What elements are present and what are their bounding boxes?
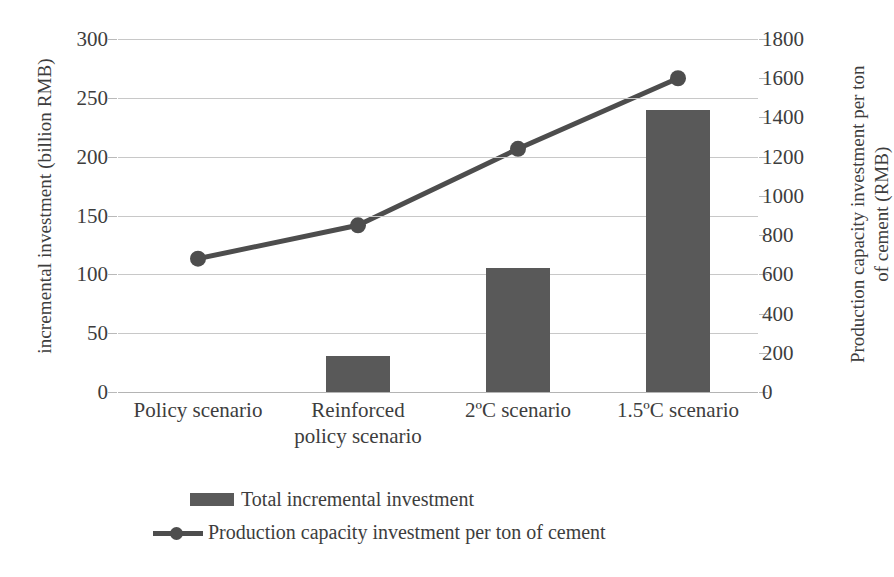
right-axis-title: Production capacity investment per ton o…: [846, 4, 894, 424]
legend-item-production-capacity-investment: Production capacity investment per ton o…: [0, 521, 889, 544]
line-marker-1: [350, 217, 366, 233]
left-tickmark-200: [108, 157, 117, 158]
left-tickmark-250: [108, 98, 117, 99]
left-tickmark-50: [108, 333, 117, 334]
right-tick-label-800: 800: [762, 225, 794, 246]
right-axis-title-line1: Production capacity investment per ton: [846, 4, 870, 424]
line-marker-0: [190, 251, 206, 267]
plot-area: [118, 39, 758, 392]
right-tick-label-1200: 1200: [762, 147, 804, 168]
category-label-3: 1.5ºC scenario: [598, 398, 758, 424]
gridline-0: [118, 392, 758, 393]
right-tick-label-1800: 1800: [762, 29, 804, 50]
category-label-2: 2ºC scenario: [438, 398, 598, 424]
legend-item-total-incremental-investment: Total incremental investment: [0, 488, 889, 511]
legend-label-total-incremental-investment: Total incremental investment: [241, 488, 474, 511]
bar-swatch-icon: [190, 493, 234, 506]
left-tick-label-200: 200: [77, 147, 109, 168]
line-marker-2: [510, 141, 526, 157]
gridline-300: [118, 39, 758, 40]
category-label-1: Reinforcedpolicy scenario: [278, 398, 438, 449]
line-path: [198, 78, 678, 258]
x-axis-category-labels: Policy scenarioReinforcedpolicy scenario…: [118, 398, 758, 458]
left-tick-label-50: 50: [87, 323, 108, 344]
left-tick-label-0: 0: [98, 382, 109, 403]
legend-label-production-capacity-investment: Production capacity investment per ton o…: [208, 521, 606, 544]
left-tick-label-100: 100: [77, 264, 109, 285]
right-axis-title-line2: of cement (RMB): [870, 4, 894, 424]
left-tickmark-100: [108, 274, 117, 275]
left-tick-label-250: 250: [77, 88, 109, 109]
line-circle-swatch-icon: [153, 525, 203, 541]
right-tick-label-1000: 1000: [762, 186, 804, 207]
bar-2: [486, 268, 550, 392]
left-tick-label-150: 150: [77, 206, 109, 227]
left-tickmark-150: [108, 216, 117, 217]
category-label-0: Policy scenario: [118, 398, 278, 424]
bar-3: [646, 110, 710, 392]
right-tick-label-400: 400: [762, 304, 794, 325]
right-tick-label-0: 0: [762, 382, 773, 403]
right-tick-label-1600: 1600: [762, 68, 804, 89]
left-tickmark-0: [108, 392, 117, 393]
right-tick-label-600: 600: [762, 264, 794, 285]
right-tick-label-1400: 1400: [762, 107, 804, 128]
line-marker-3: [670, 70, 686, 86]
left-tickmark-300: [108, 39, 117, 40]
right-tick-label-200: 200: [762, 343, 794, 364]
gridline-250: [118, 98, 758, 99]
chart-legend: Total incremental investment Production …: [0, 488, 889, 554]
left-tick-label-300: 300: [77, 29, 109, 50]
bar-1: [326, 356, 390, 392]
